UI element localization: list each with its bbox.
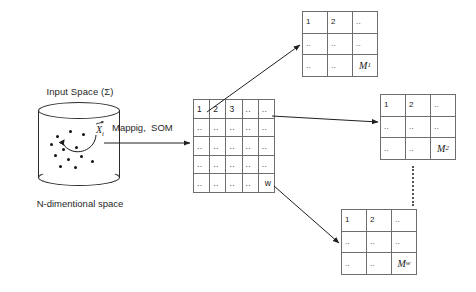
lattice-cell[interactable]: .. (259, 156, 275, 175)
lattice-cell[interactable]: .. (243, 137, 259, 156)
lattice-cell[interactable]: .. (226, 174, 242, 193)
map-cell[interactable]: .. (367, 232, 392, 254)
map-cell[interactable]: .. (342, 232, 367, 254)
lattice-cell[interactable]: 3 (226, 100, 242, 119)
input-vector-subscript: i (102, 130, 104, 138)
map-cell[interactable]: .. (431, 95, 456, 117)
map-cell[interactable]: 2 (328, 12, 353, 34)
map-cell[interactable]: .. (431, 117, 456, 139)
map-cell[interactable]: 1 (381, 95, 406, 117)
map-1-symbol: M (359, 61, 367, 71)
map-w-label: Mw (392, 253, 417, 275)
mapping-label: Mappig, SOM (112, 122, 173, 133)
lattice-cell[interactable]: .. (243, 174, 259, 193)
lattice-cell[interactable]: .. (259, 100, 275, 119)
lattice-cell[interactable]: .. (243, 119, 259, 138)
map-cell[interactable]: 1 (342, 210, 367, 232)
output-map-w-grid[interactable]: 1 2 .. .. .. .. .. .. Mw (341, 209, 417, 275)
diagram-canvas: Input Space (Σ) (0, 0, 476, 292)
map-cell[interactable]: .. (406, 117, 431, 139)
input-vector-label: Xi (96, 124, 104, 138)
map-1-subscript: 1 (367, 62, 371, 69)
map-cell[interactable]: .. (367, 253, 392, 275)
map-1-label: M1 (353, 55, 378, 77)
map-cell[interactable]: 2 (406, 95, 431, 117)
lattice-cell[interactable]: .. (210, 119, 226, 138)
arrow-lattice-to-map-w (274, 186, 339, 243)
input-space-caption: N-dimentional space (16, 198, 144, 209)
output-map-1-grid[interactable]: 1 2 .. .. .. .. .. .. M1 (302, 11, 378, 77)
lattice-cell[interactable]: .. (194, 119, 210, 138)
lattice-cell[interactable]: .. (194, 174, 210, 193)
map-cell[interactable]: .. (328, 55, 353, 77)
lattice-cell[interactable]: .. (226, 156, 242, 175)
map-2-label: M2 (431, 138, 456, 160)
input-space-group: Input Space (Σ) (20, 86, 140, 211)
map-w-symbol: M (397, 259, 405, 269)
lattice-cell[interactable]: .. (210, 137, 226, 156)
map-cell[interactable]: .. (342, 253, 367, 275)
output-map-2-grid[interactable]: 1 2 .. .. .. .. .. .. M2 (380, 94, 456, 160)
vertical-ellipsis (412, 166, 416, 206)
map-2-subscript: 2 (445, 145, 449, 152)
lattice-cell[interactable]: .. (226, 137, 242, 156)
lattice-cell[interactable]: .. (259, 137, 275, 156)
som-lattice-grid[interactable]: 1 2 3 .. .. .. .. .. .. .. .. .. .. .. .… (193, 99, 275, 193)
lattice-cell[interactable]: .. (259, 119, 275, 138)
lattice-cell[interactable]: 1 (194, 100, 210, 119)
map-cell[interactable]: .. (392, 210, 417, 232)
lattice-cell-w[interactable]: w (259, 174, 275, 193)
lattice-cell[interactable]: .. (243, 156, 259, 175)
map-cell[interactable]: .. (381, 138, 406, 160)
lattice-cell[interactable]: .. (243, 100, 259, 119)
map-cell[interactable]: 2 (367, 210, 392, 232)
map-cell[interactable]: .. (303, 55, 328, 77)
lattice-cell[interactable]: .. (210, 174, 226, 193)
map-cell[interactable]: .. (406, 138, 431, 160)
map-w-subscript: w (406, 260, 411, 267)
input-space-title: Input Space (Σ) (20, 86, 140, 97)
map-cell[interactable]: .. (328, 34, 353, 56)
input-space-cylinder: Xi (38, 102, 122, 186)
map-cell[interactable]: 1 (303, 12, 328, 34)
lattice-cell[interactable]: 2 (210, 100, 226, 119)
lattice-cell[interactable]: .. (226, 119, 242, 138)
arrow-lattice-to-map-2 (272, 116, 378, 122)
lattice-cell[interactable]: .. (210, 156, 226, 175)
lattice-cell[interactable]: .. (194, 156, 210, 175)
map-cell[interactable]: .. (353, 34, 378, 56)
map-2-symbol: M (437, 144, 445, 154)
map-cell[interactable]: .. (303, 34, 328, 56)
map-cell[interactable]: .. (392, 232, 417, 254)
input-space-curve-arrow (38, 102, 122, 186)
map-cell[interactable]: .. (353, 12, 378, 34)
lattice-cell[interactable]: .. (194, 137, 210, 156)
map-cell[interactable]: .. (381, 117, 406, 139)
